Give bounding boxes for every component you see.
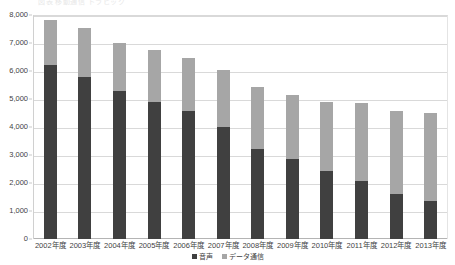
bars-layer	[33, 15, 448, 239]
y-axis-tick-label: 7,000	[9, 39, 28, 47]
bar-segment[interactable]	[113, 91, 126, 239]
y-axis-tick-label: 6,000	[9, 67, 28, 75]
chart-legend: 音声データ通信	[0, 251, 455, 262]
bar-segment[interactable]	[217, 70, 230, 127]
y-axis-tick-label: 3,000	[9, 151, 28, 159]
legend-label: 音声	[199, 253, 213, 261]
bar-segment[interactable]	[390, 111, 403, 194]
chart-top-caption: 図表 移動通信 トラヒック	[38, 0, 298, 6]
y-axis-tick-mark	[29, 183, 32, 184]
x-axis-tick-label: 2012年度	[381, 241, 412, 251]
y-axis-tick-label: 4,000	[9, 123, 28, 131]
y-axis-tick-label: 2,000	[9, 179, 28, 187]
x-axis-tick-label: 2011年度	[346, 241, 376, 251]
bar-segment[interactable]	[286, 95, 299, 159]
chart-container: 図表 移動通信 トラヒック 01,0002,0003,0004,0005,000…	[0, 0, 455, 265]
bar-segment[interactable]	[320, 102, 333, 171]
bar-segment[interactable]	[217, 127, 230, 239]
bar-segment[interactable]	[182, 111, 195, 239]
bar-segment[interactable]	[148, 50, 161, 102]
bar-segment[interactable]	[251, 149, 264, 239]
x-axis-tick-label: 2008年度	[242, 241, 273, 251]
x-axis-tick-label: 2009年度	[277, 241, 308, 251]
bar-segment[interactable]	[320, 171, 333, 239]
bar-segment[interactable]	[44, 65, 57, 239]
bar-segment[interactable]	[44, 20, 57, 65]
x-axis-tick-label: 2013年度	[415, 241, 446, 251]
y-axis-tick-label: 8,000	[9, 11, 28, 19]
y-axis-tick-mark	[29, 155, 32, 156]
y-axis-tick-mark	[29, 99, 32, 100]
y-axis-tick-mark	[29, 15, 32, 16]
bar-segment[interactable]	[148, 102, 161, 239]
legend-item[interactable]: 音声	[192, 253, 213, 261]
y-axis-labels: 01,0002,0003,0004,0005,0006,0007,0008,00…	[0, 15, 30, 239]
bar-segment[interactable]	[182, 58, 195, 111]
legend-swatch-icon	[222, 254, 227, 259]
bar-segment[interactable]	[286, 159, 299, 239]
y-axis-tick-mark	[29, 127, 32, 128]
legend-label: データ通信	[229, 253, 264, 261]
y-axis-tick-mark	[29, 43, 32, 44]
bar-segment[interactable]	[251, 87, 264, 149]
y-axis-tick-mark	[29, 239, 32, 240]
bar-segment[interactable]	[424, 113, 437, 201]
x-axis-tick-label: 2002年度	[35, 241, 66, 251]
x-axis-tick-label: 2003年度	[70, 241, 101, 251]
x-axis-tick-label: 2007年度	[208, 241, 239, 251]
x-axis-tick-label: 2006年度	[173, 241, 204, 251]
x-axis-tick-label: 2005年度	[139, 241, 170, 251]
x-axis-tick-label: 2004年度	[104, 241, 135, 251]
legend-swatch-icon	[192, 254, 197, 259]
y-axis-tick-label: 5,000	[9, 95, 28, 103]
bar-segment[interactable]	[390, 194, 403, 239]
y-axis-tick-label: 1,000	[9, 207, 28, 215]
x-axis-tick-label: 2010年度	[312, 241, 343, 251]
y-axis-tick-label: 0	[24, 235, 28, 243]
bar-segment[interactable]	[424, 201, 437, 239]
legend-item[interactable]: データ通信	[222, 253, 264, 261]
bar-segment[interactable]	[113, 43, 126, 91]
bar-segment[interactable]	[78, 28, 91, 78]
bar-segment[interactable]	[78, 77, 91, 239]
bar-segment[interactable]	[355, 181, 368, 239]
bar-segment[interactable]	[355, 103, 368, 181]
y-axis-tick-mark	[29, 211, 32, 212]
y-axis-tick-mark	[29, 71, 32, 72]
